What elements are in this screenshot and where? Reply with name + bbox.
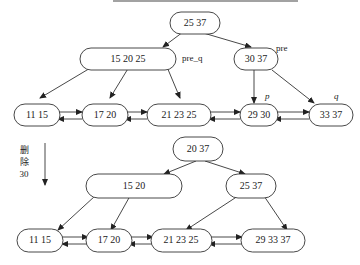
before-internal-node-pre-q: 15 20 25 pre_q — [80, 48, 203, 70]
node-keys: 17 20 — [94, 109, 117, 120]
after-leaf-1: 11 15 — [17, 229, 63, 252]
pointer-label-q: q — [334, 91, 339, 101]
node-keys: 29 33 37 — [256, 234, 291, 245]
before-leaf-5-q: 33 37 q — [309, 91, 353, 126]
node-keys: 30 37 — [245, 53, 268, 64]
after-leaf-2: 17 20 — [86, 229, 132, 252]
pointer-label-p: p — [264, 91, 270, 101]
before-leaf-1: 11 15 — [14, 104, 60, 126]
node-keys: 33 37 — [320, 109, 343, 120]
pointer-label-pre-q: pre_q — [182, 53, 203, 63]
pointer-label-pre: pre — [276, 43, 288, 53]
node-keys: 15 20 25 — [111, 53, 146, 64]
operation-label-line3: 30 — [20, 169, 30, 179]
before-root-node: 25 37 — [170, 12, 220, 34]
node-keys: 17 20 — [98, 234, 121, 245]
node-keys: 15 20 — [123, 180, 146, 191]
node-keys: 21 23 25 — [162, 109, 197, 120]
top-caption-cutoff — [113, 0, 298, 2]
node-keys: 25 37 — [184, 17, 207, 28]
node-keys: 11 15 — [29, 234, 51, 245]
node-keys: 25 37 — [240, 180, 263, 191]
before-leaf-3: 21 23 25 — [147, 104, 211, 126]
operation-label-line2: 除 — [20, 156, 29, 167]
node-keys: 21 23 25 — [164, 234, 199, 245]
node-keys: 29 30 — [248, 109, 271, 120]
after-internal-node-left: 15 20 — [86, 174, 182, 198]
node-keys: 11 15 — [26, 109, 48, 120]
before-leaf-4-p: 29 30 p — [240, 91, 278, 126]
b-plus-tree-diagram: 25 37 15 20 25 pre_q 30 37 pre 11 15 17 … — [0, 0, 360, 265]
node-keys: 20 37 — [187, 143, 210, 154]
after-internal-node-right: 25 37 — [226, 174, 276, 198]
after-leaf-3: 21 23 25 — [151, 229, 212, 252]
after-root-node: 20 37 — [173, 137, 223, 161]
delete-operation-indicator: 删 除 30 — [20, 143, 46, 185]
before-leaf-2: 17 20 — [82, 104, 128, 126]
after-leaf-4: 29 33 37 — [241, 229, 305, 252]
operation-label-line1: 删 — [20, 145, 29, 155]
before-internal-node-pre: 30 37 pre — [234, 43, 288, 70]
